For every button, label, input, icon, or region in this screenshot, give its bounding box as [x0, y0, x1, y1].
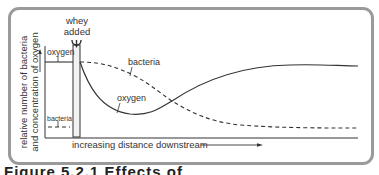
bacteria-curve-label: bacteria: [128, 57, 160, 67]
whey-label-line1: whey: [65, 15, 88, 26]
bacteria-before-label: bacteria: [47, 115, 72, 122]
y-axis-label: relative number of bacteria and concentr…: [18, 32, 44, 152]
y-axis-label-line1: relative number of bacteria: [18, 32, 29, 152]
whey-label-line2: added: [64, 26, 90, 37]
oxygen-before-label: oxygen: [47, 47, 75, 57]
oxygen-curve-label: oxygen: [117, 93, 146, 103]
figure-caption: Figure 5.2.1 Effects of: [4, 163, 183, 175]
whey-column: [73, 45, 80, 137]
diagram: whey added oxygen bacteria bacteria oxyg…: [0, 0, 379, 175]
x-axis-label: increasing distance downstream: [72, 139, 208, 150]
y-axis-label-line2: and concentration of oxygen: [29, 32, 40, 152]
